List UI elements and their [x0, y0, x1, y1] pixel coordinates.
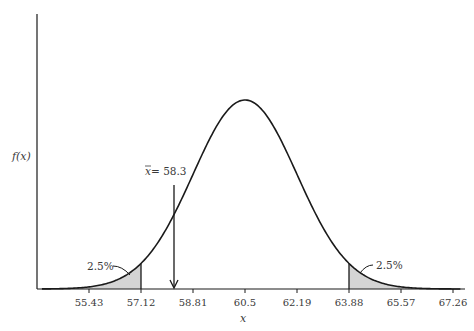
x-tick-label: 62.19 [283, 297, 312, 308]
x-tick-label: 55.43 [75, 297, 104, 308]
y-axis-label: f(x) [11, 150, 31, 163]
left-tail-label: 2.5% [87, 260, 114, 272]
x-tick-label: 63.88 [335, 297, 364, 308]
x-tick-label: 58.81 [179, 297, 208, 308]
x-tick-label: 57.12 [127, 297, 156, 308]
x-axis-label: x [240, 312, 247, 325]
right-tail-leader [360, 265, 373, 273]
normal-distribution-chart: 55.4357.1258.8160.562.1963.8865.5767.26 … [0, 0, 474, 331]
x-tick-label: 65.57 [387, 297, 416, 308]
x-tick-label: 60.5 [234, 297, 256, 308]
sample-mean-value: = 58.3 [151, 165, 187, 177]
x-tick-label: 67.26 [439, 297, 468, 308]
x-axis-ticks: 55.4357.1258.8160.562.1963.8865.5767.26 [75, 289, 468, 308]
right-tail-label: 2.5% [376, 259, 403, 271]
sample-mean-label: x = 58.3 [145, 165, 187, 177]
